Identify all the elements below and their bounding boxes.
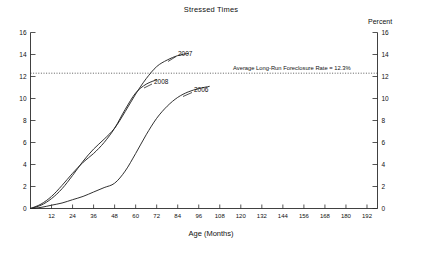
y-tick-label-10: 10 <box>19 95 27 102</box>
y-tick-label-8: 8 <box>23 117 27 124</box>
y-tick-label-16: 16 <box>19 29 27 36</box>
chart-figure: Stressed Times Percent Age (Months) 0246… <box>0 0 422 255</box>
y-tick-label-12: 12 <box>19 73 27 80</box>
right-y-axis-tick-labels: 0246810121416 <box>382 29 390 212</box>
right-y-tick-label-8: 8 <box>382 117 386 124</box>
right-y-tick-label-16: 16 <box>382 29 390 36</box>
x-tick-label-96: 96 <box>195 213 202 219</box>
x-tick-label-180: 180 <box>341 213 352 219</box>
x-tick-label-24: 24 <box>69 213 76 219</box>
plot-area: 0246810121416 0246810121416 122436486072… <box>0 0 422 255</box>
x-tick-label-108: 108 <box>215 213 226 219</box>
y-tick-label-4: 4 <box>23 161 27 168</box>
y-tick-label-14: 14 <box>19 51 27 58</box>
series-label-2008: 2008 <box>154 78 169 85</box>
right-y-tick-label-10: 10 <box>382 95 390 102</box>
average-long-run-foreclosure-rate-label: Average Long-Run Foreclosure Rate = 12.3… <box>233 65 351 71</box>
annotation-layer: Average Long-Run Foreclosure Rate = 12.3… <box>31 65 378 73</box>
y-tick-label-0: 0 <box>23 205 27 212</box>
right-y-tick-label-14: 14 <box>382 51 390 58</box>
right-y-tick-label-6: 6 <box>382 139 386 146</box>
x-tick-label-168: 168 <box>320 213 331 219</box>
axes <box>31 33 378 209</box>
y-tick-label-6: 6 <box>23 139 27 146</box>
series-label-2006: 2006 <box>194 86 209 93</box>
x-axis-tick-labels: 1224364860728496108120132144156168180192 <box>48 213 372 219</box>
series-label-2007: 2007 <box>178 50 193 57</box>
x-tick-label-156: 156 <box>299 213 310 219</box>
right-y-tick-label-2: 2 <box>382 183 386 190</box>
y-tick-label-2: 2 <box>23 183 27 190</box>
x-tick-label-36: 36 <box>90 213 97 219</box>
x-tick-label-120: 120 <box>236 213 247 219</box>
x-tick-label-48: 48 <box>111 213 118 219</box>
right-y-tick-label-4: 4 <box>382 161 386 168</box>
series-lines <box>31 53 210 208</box>
series-leader-2006 <box>183 93 192 97</box>
x-tick-label-144: 144 <box>278 213 289 219</box>
x-tick-label-132: 132 <box>257 213 268 219</box>
x-tick-label-60: 60 <box>132 213 139 219</box>
y-axis-tick-labels: 0246810121416 <box>19 29 27 212</box>
x-tick-label-72: 72 <box>153 213 160 219</box>
right-y-tick-label-0: 0 <box>382 205 386 212</box>
x-tick-label-12: 12 <box>48 213 55 219</box>
x-tick-label-84: 84 <box>174 213 181 219</box>
x-tick-label-192: 192 <box>362 213 373 219</box>
series-line-2008 <box>31 80 157 209</box>
right-y-tick-label-12: 12 <box>382 73 390 80</box>
tick-marks <box>31 33 378 209</box>
